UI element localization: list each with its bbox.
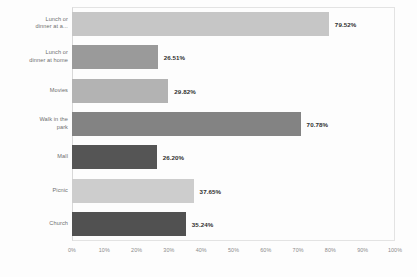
x-axis: 0%10%20%30%40%50%60%70%80%90%100% bbox=[72, 241, 395, 271]
category-label: Lunch or dinner at a... bbox=[4, 16, 68, 31]
x-axis-tick-label: 50% bbox=[228, 247, 239, 253]
bar[interactable] bbox=[72, 179, 194, 203]
category-label: Mall bbox=[4, 154, 68, 162]
bar-track: 70.78% bbox=[72, 112, 395, 136]
x-axis-tick-label: 70% bbox=[293, 247, 304, 253]
bar-value-label: 29.82% bbox=[174, 87, 196, 94]
bar-track: 37.65% bbox=[72, 179, 395, 203]
bar-row: Mall26.20% bbox=[0, 141, 417, 174]
bar-value-label: 26.51% bbox=[164, 54, 186, 61]
bar-value-label: 37.65% bbox=[200, 187, 222, 194]
bar[interactable] bbox=[72, 112, 301, 136]
bar[interactable] bbox=[72, 12, 329, 36]
bar-track: 29.82% bbox=[72, 79, 395, 103]
x-axis-tick-label: 100% bbox=[388, 247, 402, 253]
bar-row: Lunch or dinner at home26.51% bbox=[0, 40, 417, 73]
x-axis-tick-label: 80% bbox=[325, 247, 336, 253]
category-label: Church bbox=[4, 220, 68, 228]
bar-value-label: 70.78% bbox=[307, 120, 329, 127]
bar-row: Church35.24% bbox=[0, 207, 417, 240]
bar-row: Picnic37.65% bbox=[0, 174, 417, 207]
bar-track: 35.24% bbox=[72, 212, 395, 236]
bar-rows: Lunch or dinner at a...79.52%Lunch or di… bbox=[0, 7, 417, 241]
x-axis-tick-label: 40% bbox=[196, 247, 207, 253]
x-axis-tick-label: 20% bbox=[131, 247, 142, 253]
bar[interactable] bbox=[72, 79, 168, 103]
bar-value-label: 26.20% bbox=[163, 154, 185, 161]
bar-track: 26.51% bbox=[72, 45, 395, 69]
x-axis-tick-label: 10% bbox=[99, 247, 110, 253]
bar[interactable] bbox=[72, 145, 157, 169]
bar[interactable] bbox=[72, 45, 158, 69]
x-axis-tick-label: 90% bbox=[357, 247, 368, 253]
category-label: Picnic bbox=[4, 187, 68, 195]
bar-row: Lunch or dinner at a...79.52% bbox=[0, 7, 417, 40]
category-label: Lunch or dinner at home bbox=[4, 50, 68, 65]
bar-chart: Lunch or dinner at a...79.52%Lunch or di… bbox=[0, 0, 417, 277]
bar-row: Movies29.82% bbox=[0, 74, 417, 107]
bar[interactable] bbox=[72, 212, 186, 236]
bar-track: 79.52% bbox=[72, 12, 395, 36]
bar-row: Walk in the park70.78% bbox=[0, 107, 417, 140]
bar-track: 26.20% bbox=[72, 145, 395, 169]
bar-value-label: 79.52% bbox=[335, 20, 357, 27]
x-axis-tick-label: 30% bbox=[163, 247, 174, 253]
category-label: Walk in the park bbox=[4, 116, 68, 131]
x-axis-tick-label: 0% bbox=[68, 247, 76, 253]
x-axis-tick-label: 60% bbox=[260, 247, 271, 253]
bar-value-label: 35.24% bbox=[192, 221, 214, 228]
category-label: Movies bbox=[4, 87, 68, 95]
